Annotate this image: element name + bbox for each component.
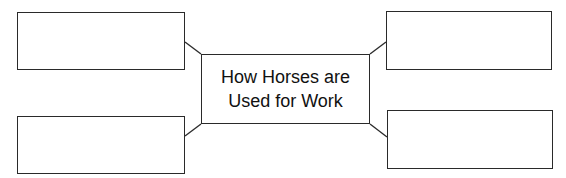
branch-box-bottom-left[interactable]	[17, 116, 185, 174]
center-topic-title: How Horses are Used for Work	[202, 65, 369, 113]
branch-box-top-right[interactable]	[386, 11, 552, 70]
center-topic-box: How Horses are Used for Work	[201, 54, 370, 124]
connector-bottom-right	[370, 124, 387, 137]
center-topic-line-2: Used for Work	[202, 89, 369, 113]
center-topic-line-1: How Horses are	[202, 65, 369, 89]
branch-box-top-left[interactable]	[17, 12, 185, 70]
connector-top-right	[370, 42, 386, 54]
connector-bottom-left	[185, 124, 201, 136]
connector-top-left	[185, 42, 201, 54]
branch-box-bottom-right[interactable]	[387, 110, 553, 169]
